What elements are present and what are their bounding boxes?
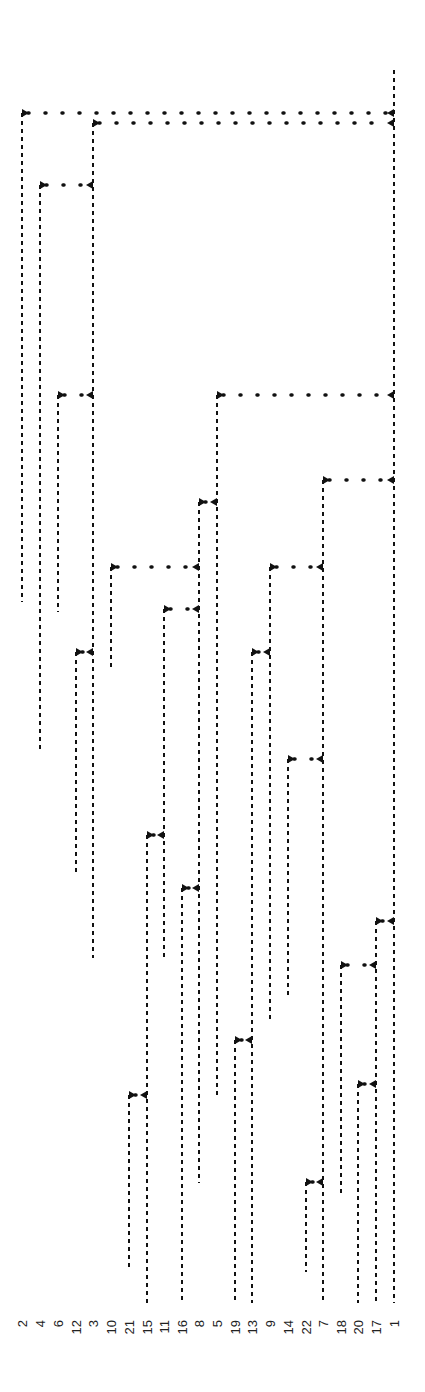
arrowhead-right-icon [306, 1178, 313, 1186]
arrowhead-left-icon [369, 961, 376, 969]
leaf-label: 16 [175, 1320, 190, 1334]
arrowhead-right-icon [235, 1036, 242, 1044]
leaf-label: 3 [86, 1320, 101, 1327]
arrowhead-left-icon [387, 476, 394, 484]
arrowhead-left-icon [192, 605, 199, 613]
arrowhead-right-icon [40, 181, 47, 189]
leaf-label: 8 [192, 1320, 207, 1327]
arrowhead-left-icon [86, 181, 93, 189]
arrowhead-right-icon [182, 884, 189, 892]
leaf-label: 14 [281, 1320, 296, 1334]
arrowhead-right-icon [376, 917, 383, 925]
dendrogram-links [22, 70, 394, 1303]
arrowhead-left-icon [192, 563, 199, 571]
arrowhead-right-icon [358, 1080, 365, 1088]
arrowhead-left-icon [316, 755, 323, 763]
leaf-label: 1 [387, 1320, 402, 1327]
leaf-label: 18 [334, 1320, 349, 1334]
arrowhead-left-icon [263, 648, 270, 656]
arrowhead-right-icon [58, 391, 65, 399]
arrowhead-right-icon [323, 476, 330, 484]
leaf-label: 10 [104, 1320, 119, 1334]
arrowhead-right-icon [270, 563, 277, 571]
arrowhead-left-icon [316, 1178, 323, 1186]
arrowhead-right-icon [22, 109, 29, 117]
arrowhead-right-icon [147, 831, 154, 839]
leaf-label: 11 [157, 1320, 172, 1334]
leaf-label: 2 [15, 1320, 30, 1327]
arrowhead-right-icon [199, 498, 206, 506]
leaf-label: 7 [316, 1320, 331, 1327]
arrowhead-left-icon [192, 884, 199, 892]
leaf-label: 17 [369, 1320, 384, 1334]
leaf-label: 5 [210, 1320, 225, 1327]
arrowhead-left-icon [387, 917, 394, 925]
arrowhead-left-icon [245, 1036, 252, 1044]
arrowhead-left-icon [86, 391, 93, 399]
arrowhead-right-icon [76, 648, 83, 656]
arrowhead-left-icon [369, 1080, 376, 1088]
leaf-label: 22 [299, 1320, 314, 1334]
arrowhead-left-icon [387, 119, 394, 127]
leaf-label: 19 [228, 1320, 243, 1334]
arrowhead-right-icon [252, 648, 259, 656]
leaf-label: 13 [245, 1320, 260, 1334]
arrowhead-left-icon [140, 1091, 147, 1099]
arrowhead-left-icon [86, 648, 93, 656]
arrowhead-right-icon [93, 119, 100, 127]
arrowhead-left-icon [387, 109, 394, 117]
arrowhead-left-icon [157, 831, 164, 839]
leaf-label: 20 [351, 1320, 366, 1334]
dendrogram: 24612310211511168519139142271820171 [0, 0, 425, 1392]
leaf-label: 21 [122, 1320, 137, 1334]
arrowhead-right-icon [111, 563, 118, 571]
arrowhead-left-icon [387, 391, 394, 399]
arrowhead-right-icon [217, 391, 224, 399]
arrowhead-right-icon [129, 1091, 136, 1099]
leaf-label: 12 [69, 1320, 84, 1334]
leaf-label: 15 [140, 1320, 155, 1334]
leaf-label: 6 [51, 1320, 66, 1327]
arrowhead-left-icon [316, 563, 323, 571]
arrowhead-right-icon [164, 605, 171, 613]
arrowhead-left-icon [210, 498, 217, 506]
arrowhead-right-icon [341, 961, 348, 969]
arrowhead-right-icon [288, 755, 295, 763]
leaf-labels: 24612310211511168519139142271820171 [15, 1320, 402, 1334]
leaf-label: 4 [33, 1320, 48, 1327]
leaf-label: 9 [263, 1320, 278, 1327]
